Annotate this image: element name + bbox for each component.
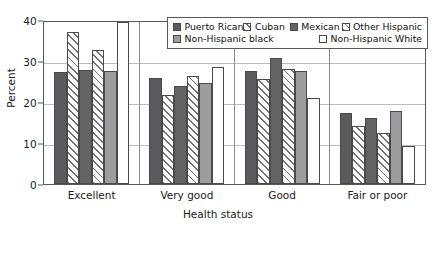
x-axis-label-excellent: Excellent — [44, 189, 139, 201]
chart-legend: Puerto RicanCubanMexicanOther Hispanic N… — [167, 17, 428, 49]
legend-item-mexican: Mexican — [290, 22, 342, 31]
bar-mexican-excellent — [79, 70, 92, 184]
bar-mexican-good — [270, 58, 283, 184]
x-axis-label-good: Good — [235, 189, 330, 201]
bar-cuban-very-good — [162, 95, 175, 184]
y-tickmark-20 — [38, 103, 43, 104]
legend-item-other-hispanic: Other Hispanic — [342, 22, 422, 31]
y-axis-title: Percent — [5, 53, 17, 123]
legend-row-1: Puerto RicanCubanMexicanOther Hispanic — [173, 21, 422, 33]
legend-item-puerto-rican: Puerto Rican — [173, 22, 243, 31]
bar-cuban-good — [257, 79, 270, 184]
y-tickmark-30 — [38, 62, 43, 63]
y-tick-label-40: 40 — [23, 15, 37, 27]
bar-non-hispanic-black-excellent — [104, 71, 117, 184]
bar-non-hispanic-black-fair-or-poor — [390, 111, 403, 184]
bar-puerto-rican-fair-or-poor — [340, 113, 353, 184]
x-axis-label-very-good: Very good — [139, 189, 234, 201]
legend-swatch-icon — [173, 23, 181, 31]
legend-item-non-hispanic-black: Non-Hispanic black — [173, 34, 319, 43]
bar-puerto-rican-excellent — [54, 72, 67, 184]
bar-other-hispanic-fair-or-poor — [377, 133, 390, 184]
bar-non-hispanic-white-good — [307, 98, 320, 184]
y-tick-label-10: 10 — [23, 138, 37, 150]
legend-swatch-icon — [173, 35, 181, 43]
legend-swatch-icon — [319, 35, 327, 43]
legend-label: Non-Hispanic White — [331, 34, 422, 43]
bar-cuban-fair-or-poor — [352, 126, 365, 184]
legend-label: Puerto Rican — [185, 22, 244, 31]
legend-row-2: Non-Hispanic blackNon-Hispanic White — [173, 33, 422, 45]
legend-label: Other Hispanic — [353, 22, 422, 31]
y-tickmark-10 — [38, 144, 43, 145]
bar-non-hispanic-black-very-good — [199, 83, 212, 184]
bar-mexican-very-good — [174, 86, 187, 184]
bar-puerto-rican-very-good — [149, 78, 162, 185]
legend-swatch-icon — [342, 23, 350, 31]
legend-item-cuban: Cuban — [243, 22, 289, 31]
y-tickmark-40 — [38, 21, 43, 22]
legend-swatch-icon — [290, 23, 298, 31]
legend-swatch-icon — [243, 23, 251, 31]
legend-item-non-hispanic-white: Non-Hispanic White — [319, 34, 422, 43]
y-tickmark-0 — [38, 185, 43, 186]
bar-cuban-excellent — [67, 32, 80, 184]
bar-chart: 40 30 20 10 0 Percent ExcellentVery good… — [0, 0, 436, 276]
bar-group-excellent — [44, 22, 139, 184]
x-axis-labels: ExcellentVery goodGoodFair or poor — [44, 189, 425, 201]
bar-puerto-rican-good — [245, 71, 258, 184]
y-tick-label-0: 0 — [30, 179, 37, 191]
bar-other-hispanic-excellent — [92, 50, 105, 184]
legend-label: Mexican — [301, 22, 339, 31]
y-tick-label-30: 30 — [23, 56, 37, 68]
bar-non-hispanic-black-good — [295, 71, 308, 184]
bar-other-hispanic-good — [282, 69, 295, 184]
bar-non-hispanic-white-fair-or-poor — [402, 146, 415, 184]
bar-mexican-fair-or-poor — [365, 118, 378, 184]
legend-label: Non-Hispanic black — [185, 34, 274, 43]
x-axis-label-fair-or-poor: Fair or poor — [330, 189, 425, 201]
bar-non-hispanic-white-very-good — [212, 67, 225, 184]
legend-label: Cuban — [255, 22, 285, 31]
bar-non-hispanic-white-excellent — [117, 22, 130, 184]
y-tick-label-20: 20 — [23, 97, 37, 109]
bar-other-hispanic-very-good — [187, 76, 200, 184]
x-axis-title: Health status — [0, 208, 436, 220]
